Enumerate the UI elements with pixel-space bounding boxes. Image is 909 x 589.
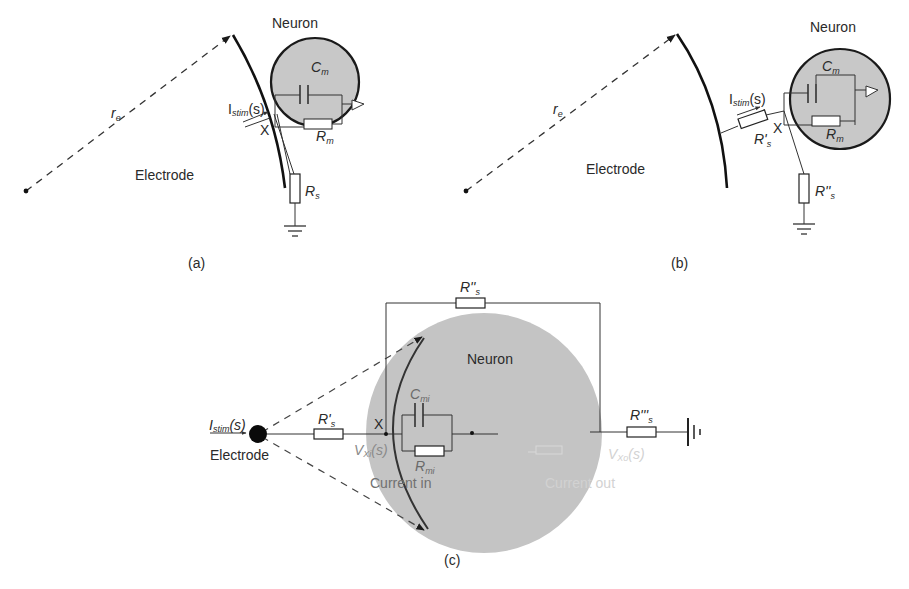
current-in-label: Current in [370, 475, 431, 491]
resistor-label-rs1: R's [754, 131, 772, 149]
panel-c-caption: (c) [444, 552, 460, 568]
node-x-label: X [773, 120, 783, 136]
wire [277, 114, 290, 174]
electrode-label: Electrode [586, 161, 645, 177]
panel-c: Neuron Electrode Istim(s) R's R''s R'''s… [209, 279, 700, 568]
ground-icon [688, 418, 700, 446]
node-x-dot [384, 432, 388, 436]
node-x-label: X [260, 122, 270, 138]
electrode-ball [249, 425, 267, 443]
voltage-in-label: VXi(s) [354, 442, 388, 459]
node-x-label: X [374, 416, 384, 432]
junction-dot [470, 431, 474, 435]
wire [721, 126, 738, 133]
neuron-label: Neuron [272, 15, 318, 31]
radius-arrow [26, 36, 230, 191]
stim-current-label: Istim(s) [228, 101, 265, 118]
stim-current-label: Istim(s) [729, 91, 766, 108]
ground-icon [793, 224, 815, 234]
electrode-center-dot [464, 189, 469, 194]
electrode-neuron-circuit-diagram: Neuron Electrode re Cm Rm Rs Istim(s) X … [0, 0, 909, 589]
neuron-label: Neuron [810, 19, 856, 35]
neuron-label: Neuron [467, 351, 513, 367]
resistor-label-rs1: R's [318, 411, 336, 429]
radius-label: re [111, 105, 121, 123]
panel-a: Neuron Electrode re Cm Rm Rs Istim(s) X … [24, 15, 364, 271]
panel-a-caption: (a) [188, 255, 205, 271]
voltage-out-label: VXo(s) [608, 446, 645, 463]
resistor-label-rs3: R'''s [630, 407, 653, 425]
electrode-label: Electrode [210, 447, 269, 463]
radius-label: re [553, 101, 563, 119]
series-resistor-rs2 [799, 174, 809, 203]
resistor-label-rs: Rs [305, 183, 320, 201]
resistor-label-rs2: R''s [815, 183, 835, 201]
figure-canvas: Neuron Electrode re Cm Rm Rs Istim(s) X … [0, 0, 909, 589]
panel-b: Neuron Electrode re Cm Rm R's R''s Istim… [464, 19, 890, 271]
wire [766, 111, 784, 115]
resistor-label-rm: Rm [316, 128, 334, 146]
neuron-cell [271, 38, 359, 126]
series-resistor-rs [290, 174, 300, 203]
stim-current-label: Istim(s) [209, 417, 246, 434]
electrode-surface-arc [677, 34, 727, 188]
ground-icon [284, 226, 306, 236]
current-out-label: Current out [545, 475, 615, 491]
electrode-label: Electrode [135, 167, 194, 183]
electrode-center-dot [24, 189, 29, 194]
resistor-label-rs2: R''s [460, 279, 480, 297]
panel-b-caption: (b) [671, 255, 688, 271]
